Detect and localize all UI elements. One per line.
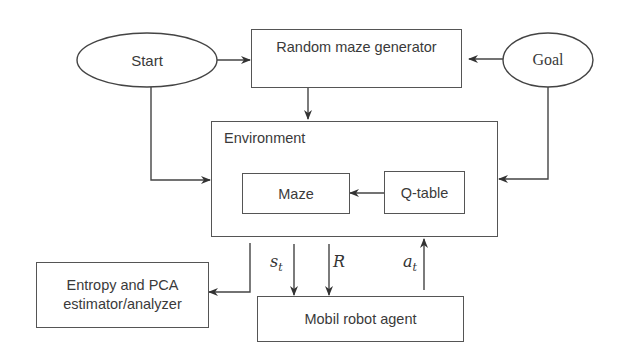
action-edge-label: at <box>403 252 417 274</box>
mobil-robot-agent-node: Mobil robot agent <box>257 296 464 342</box>
edge-start-to-environment <box>151 87 210 180</box>
random-maze-generator-label: Random maze generator <box>252 39 461 55</box>
start-node: Start <box>77 33 217 87</box>
reward-edge-label: R <box>333 252 345 271</box>
environment-label: Environment <box>224 130 305 146</box>
q-table-label: Q-table <box>401 185 449 201</box>
entropy-pca-label-line1: Entropy and PCA <box>66 276 178 295</box>
mobil-robot-agent-label: Mobil robot agent <box>304 311 416 327</box>
goal-node: Goal <box>503 33 593 87</box>
reward-symbol: R <box>333 252 345 271</box>
maze-node: Maze <box>242 173 350 214</box>
edge-goal-to-environment <box>499 87 548 179</box>
random-maze-generator-node: Random maze generator <box>251 29 462 88</box>
start-label: Start <box>131 52 163 69</box>
state-symbol: s <box>270 252 278 271</box>
state-edge-label: st <box>270 252 283 274</box>
action-subscript: t <box>413 261 417 274</box>
edge-environment-to-entropy <box>209 243 250 292</box>
entropy-pca-label-line2: estimator/analyzer <box>63 295 181 314</box>
state-subscript: t <box>278 261 282 274</box>
maze-label: Maze <box>278 186 313 202</box>
goal-label: Goal <box>532 51 563 69</box>
entropy-pca-node: Entropy and PCA estimator/analyzer <box>36 262 209 328</box>
action-symbol: a <box>403 252 413 271</box>
q-table-node: Q-table <box>384 171 465 214</box>
